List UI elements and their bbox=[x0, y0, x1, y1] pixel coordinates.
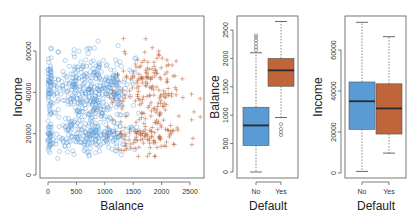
scatter-point-no bbox=[123, 77, 127, 81]
scatter-point-yes bbox=[152, 60, 157, 65]
scatter-point-yes bbox=[150, 134, 155, 139]
scatter-point-no bbox=[99, 70, 103, 74]
scatter-point-yes bbox=[127, 138, 132, 143]
scatter-point-yes bbox=[152, 154, 157, 159]
box1-frame bbox=[237, 16, 298, 178]
scatter-point-yes bbox=[176, 128, 181, 133]
scatter-point-no bbox=[107, 115, 111, 119]
scatter-point-no bbox=[98, 107, 102, 111]
scatter-point-yes bbox=[159, 66, 164, 71]
scatter-y-tick: 0 bbox=[25, 173, 32, 177]
scatter-point-no bbox=[57, 149, 61, 153]
category-label: No bbox=[358, 188, 367, 195]
scatter-x-tick: 0 bbox=[46, 188, 50, 195]
scatter-point-yes bbox=[147, 93, 152, 98]
box2-y-label: Income bbox=[311, 77, 325, 117]
outlier-point bbox=[279, 127, 282, 130]
scatter-x-tick: 2500 bbox=[182, 188, 198, 195]
scatter-point-yes bbox=[152, 130, 157, 135]
scatter-point-yes bbox=[164, 91, 169, 96]
scatter-point-yes bbox=[160, 56, 165, 61]
scatter-point-yes bbox=[140, 81, 145, 86]
scatter-point-no bbox=[86, 52, 90, 56]
y-tick-label: 1000 bbox=[222, 107, 229, 123]
scatter-point-yes bbox=[153, 154, 158, 159]
scatter-point-no bbox=[131, 103, 135, 107]
scatter-point-yes bbox=[147, 151, 152, 156]
box2-x-label: Default bbox=[357, 199, 396, 213]
scatter-point-no bbox=[116, 44, 120, 48]
y-tick-label: 0 bbox=[222, 170, 229, 174]
scatter-point-yes bbox=[198, 96, 203, 101]
scatter-point-yes bbox=[148, 145, 153, 150]
scatter-point-yes bbox=[145, 154, 150, 159]
scatter-point-no bbox=[107, 145, 111, 149]
scatter-points bbox=[46, 36, 203, 160]
scatter-point-no bbox=[63, 58, 67, 62]
scatter-point-yes bbox=[169, 94, 174, 99]
scatter-point-yes bbox=[166, 86, 171, 91]
box-no bbox=[349, 82, 375, 129]
scatter-point-yes bbox=[156, 101, 161, 106]
scatter-point-no bbox=[119, 64, 123, 68]
scatter-point-yes bbox=[150, 45, 155, 50]
scatter-point-no bbox=[119, 153, 123, 157]
scatter-point-no bbox=[84, 58, 88, 62]
scatter-point-yes bbox=[157, 88, 162, 93]
box1-y-label: Balance bbox=[208, 75, 222, 119]
y-tick-label: 2000 bbox=[222, 51, 229, 67]
scatter-point-no bbox=[104, 64, 108, 68]
scatter-point-yes bbox=[180, 76, 185, 81]
scatter-point-yes bbox=[154, 85, 159, 90]
scatter-point-yes bbox=[117, 79, 122, 84]
scatter-point-no bbox=[98, 120, 102, 124]
scatter-point-yes bbox=[172, 142, 177, 147]
scatter-point-no bbox=[67, 64, 71, 68]
scatter-point-yes bbox=[159, 125, 164, 130]
scatter-point-yes bbox=[139, 115, 144, 120]
scatter-point-yes bbox=[158, 111, 163, 116]
scatter-point-no bbox=[59, 92, 63, 96]
scatter-point-yes bbox=[144, 70, 149, 75]
scatter-point-yes bbox=[135, 58, 140, 63]
scatter-point-no bbox=[94, 151, 98, 155]
scatter-point-yes bbox=[198, 115, 203, 120]
scatter-point-no bbox=[56, 107, 60, 111]
scatter-point-yes bbox=[143, 36, 148, 41]
scatter-point-yes bbox=[175, 126, 180, 131]
scatter-point-no bbox=[88, 64, 92, 68]
scatter-point-no bbox=[96, 39, 100, 43]
box1-content: 05001000150020002500NoYes bbox=[222, 21, 294, 195]
boxplot-income-by-default: 0200004000060000NoYes Default Income bbox=[311, 16, 406, 213]
scatter-point-yes bbox=[121, 36, 126, 41]
scatter-point-yes bbox=[149, 109, 154, 114]
figure: 050010001500200025000200004000060000 Bal… bbox=[0, 0, 416, 218]
scatter-point-yes bbox=[147, 141, 152, 146]
outlier-point bbox=[254, 42, 257, 45]
scatter-point-yes bbox=[164, 79, 169, 84]
scatter-point-yes bbox=[135, 92, 140, 97]
scatter-point-yes bbox=[128, 142, 133, 147]
scatter-point-yes bbox=[171, 142, 176, 147]
scatter-point-yes bbox=[173, 85, 178, 90]
scatter-point-yes bbox=[159, 144, 164, 149]
y-tick-label: 2500 bbox=[222, 22, 229, 38]
scatter-x-label: Balance bbox=[100, 199, 144, 213]
scatter-point-yes bbox=[168, 123, 173, 128]
boxplot-balance-by-default: 05001000150020002500NoYes Default Balanc… bbox=[208, 16, 298, 213]
scatter-point-yes bbox=[165, 58, 170, 63]
scatter-point-no bbox=[137, 111, 141, 115]
scatter-point-yes bbox=[152, 138, 157, 143]
scatter-point-yes bbox=[157, 49, 162, 54]
scatter-x-tick: 500 bbox=[71, 188, 83, 195]
scatter-point-yes bbox=[190, 142, 195, 147]
scatter-point-yes bbox=[161, 118, 166, 123]
box-yes bbox=[268, 58, 294, 86]
scatter-point-yes bbox=[134, 120, 139, 125]
scatter-point-yes bbox=[189, 92, 194, 97]
scatter-point-no bbox=[118, 60, 122, 64]
outlier-point bbox=[279, 123, 282, 126]
scatter-point-no bbox=[65, 75, 69, 79]
scatter-point-yes bbox=[174, 59, 179, 64]
scatter-point-no bbox=[49, 56, 53, 60]
